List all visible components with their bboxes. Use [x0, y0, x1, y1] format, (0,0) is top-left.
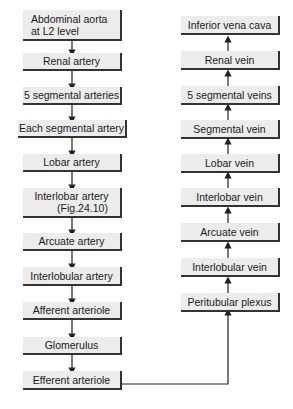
- box-interlobular-artery: Interlobular artery: [23, 267, 122, 286]
- box-interlobar-artery: Interlobar artery(Fig.24.10): [23, 188, 122, 218]
- box-each-segmental-artery: Each segmental artery: [18, 120, 127, 138]
- box-lobar-vein: Lobar vein: [181, 154, 280, 173]
- box-label: Arcuate artery: [39, 235, 105, 247]
- box-lobar-artery: Lobar artery: [23, 154, 122, 172]
- box-renal-artery: Renal artery: [23, 53, 122, 71]
- box-efferent-arteriole: Efferent arteriole: [23, 371, 122, 390]
- box-label: Inferior vena cava: [188, 19, 271, 31]
- box-label: Interlobular artery: [30, 270, 112, 282]
- box-peritubular-plexus: Peritubular plexus: [181, 293, 280, 312]
- box-renal-vein: Renal vein: [181, 51, 280, 70]
- box-label: Renal artery: [43, 55, 100, 67]
- box-label: Renal vein: [205, 54, 255, 66]
- box-label: 5 segmental arteries: [24, 89, 119, 101]
- box-label: 5 segmental veins: [187, 89, 272, 101]
- box-label: Peritubular plexus: [187, 296, 271, 308]
- box-label: Each segmental artery: [19, 122, 124, 134]
- box-label: Afferent arteriole: [33, 304, 110, 316]
- box-label: Glomerulus: [45, 339, 99, 351]
- box-label: at L2 level: [31, 25, 79, 37]
- box-interlobular-vein: Interlobular vein: [181, 258, 280, 277]
- box-label: Abdominal aorta: [31, 13, 107, 25]
- box-label: Arcuate vein: [200, 226, 258, 238]
- box-inferior-vena-cava: Inferior vena cava: [181, 16, 280, 35]
- box-label: Efferent arteriole: [33, 374, 110, 386]
- box-label: Lobar vein: [205, 157, 254, 169]
- box-label: Interlobar artery: [34, 190, 108, 202]
- box-afferent-arteriole: Afferent arteriole: [23, 302, 122, 320]
- box-glomerulus: Glomerulus: [23, 337, 122, 355]
- box-label: Lobar artery: [43, 156, 100, 168]
- box-arcuate-vein: Arcuate vein: [181, 223, 280, 242]
- box-5-segmental-veins: 5 segmental veins: [181, 86, 280, 105]
- box-label: Interlobar vein: [196, 191, 263, 203]
- box-label: Segmental vein: [193, 123, 265, 135]
- box-5-segmental-arteries: 5 segmental arteries: [23, 87, 122, 105]
- box-label-figure-ref: (Fig.24.10): [35, 202, 108, 214]
- box-label: Interlobular vein: [192, 261, 267, 273]
- box-abdominal-aorta: Abdominal aortaat L2 level: [23, 10, 122, 41]
- box-interlobar-vein: Interlobar vein: [181, 188, 280, 207]
- box-arcuate-artery: Arcuate artery: [23, 233, 122, 251]
- box-segmental-vein: Segmental vein: [181, 120, 280, 139]
